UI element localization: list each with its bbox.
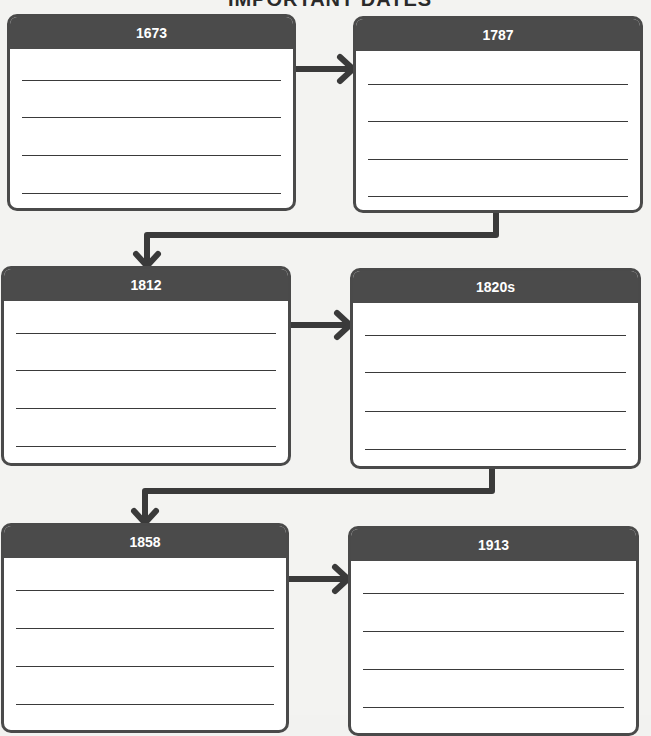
- write-line[interactable]: [365, 411, 626, 412]
- write-line[interactable]: [363, 593, 624, 594]
- write-line[interactable]: [16, 333, 276, 334]
- write-line[interactable]: [365, 372, 626, 373]
- box-header: 1787: [355, 18, 641, 51]
- write-line[interactable]: [16, 408, 276, 409]
- write-line[interactable]: [22, 80, 281, 81]
- write-line[interactable]: [16, 704, 274, 705]
- write-line[interactable]: [22, 117, 281, 118]
- box-header: 1913: [350, 528, 637, 561]
- box-header: 1820s: [352, 270, 639, 303]
- box-header: 1812: [3, 268, 289, 301]
- write-line[interactable]: [365, 449, 626, 450]
- write-line[interactable]: [16, 370, 276, 371]
- box-header: 1858: [3, 525, 287, 558]
- write-line[interactable]: [363, 631, 624, 632]
- worksheet-title-clipped: IMPORTANT DATES: [200, 0, 460, 6]
- timeline-box-1673: 1673: [7, 14, 296, 211]
- box-header: 1673: [9, 16, 294, 49]
- write-line[interactable]: [16, 590, 274, 591]
- write-line[interactable]: [368, 196, 628, 197]
- write-line[interactable]: [368, 84, 628, 85]
- write-line[interactable]: [365, 335, 626, 336]
- timeline-box-1787: 1787: [353, 16, 643, 213]
- write-line[interactable]: [22, 193, 281, 194]
- timeline-box-1858: 1858: [1, 523, 289, 733]
- write-line[interactable]: [368, 121, 628, 122]
- write-line[interactable]: [16, 628, 274, 629]
- timeline-box-1812: 1812: [1, 266, 291, 466]
- write-line[interactable]: [363, 707, 624, 708]
- write-line[interactable]: [16, 666, 274, 667]
- timeline-box-1820s: 1820s: [350, 268, 641, 469]
- write-line[interactable]: [363, 669, 624, 670]
- write-line[interactable]: [368, 159, 628, 160]
- write-line[interactable]: [16, 446, 276, 447]
- timeline-box-1913: 1913: [348, 526, 639, 736]
- write-line[interactable]: [22, 155, 281, 156]
